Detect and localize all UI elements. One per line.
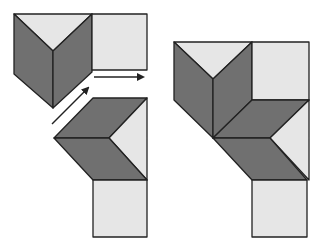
right-figure (174, 42, 309, 237)
left-lower-light-square (93, 180, 147, 237)
left-upper-light-square (92, 14, 147, 70)
right-light-square-top (252, 42, 309, 100)
tangram-diagram (0, 0, 315, 247)
right-light-square-bottom (252, 180, 307, 237)
diagram-svg (0, 0, 315, 247)
left-upper-piece (14, 14, 147, 108)
left-lower-piece (54, 98, 147, 237)
left-figure (14, 14, 147, 237)
